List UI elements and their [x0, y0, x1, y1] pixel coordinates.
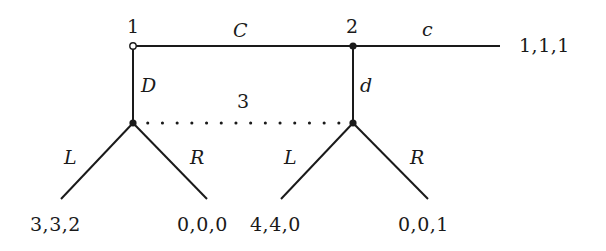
decision-node-icon — [349, 119, 356, 126]
decision-node-icon — [129, 119, 136, 126]
action-label-c: c — [422, 20, 433, 39]
action-label-R-right: R — [410, 148, 424, 167]
decision-node-icon — [349, 42, 356, 49]
game-tree — [0, 0, 606, 251]
payoff-D-R: 0,0,0 — [177, 215, 228, 234]
player-label-3: 3 — [237, 92, 249, 111]
player-label-2: 2 — [346, 17, 358, 36]
player-label-1: 1 — [127, 17, 139, 36]
action-label-C: C — [233, 21, 248, 40]
action-label-d: d — [360, 76, 372, 95]
payoff-terminal-cc: 1,1,1 — [519, 36, 570, 55]
root-node-icon — [130, 43, 136, 49]
action-label-D: D — [141, 76, 156, 95]
payoff-Cd-R: 0,0,1 — [398, 215, 449, 234]
action-label-L-left: L — [64, 148, 77, 167]
payoff-Cd-L: 4,4,0 — [250, 215, 301, 234]
action-label-L-right: L — [284, 148, 297, 167]
payoff-D-L: 3,3,2 — [30, 215, 81, 234]
action-label-R-left: R — [190, 148, 204, 167]
